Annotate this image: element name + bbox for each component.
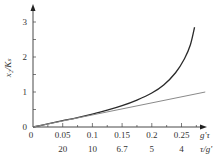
x-axis-arrow-icon — [200, 125, 207, 130]
y-tick-label: 3 — [23, 17, 28, 27]
x-axis: 00.05200.1100.156.70.250.254 — [29, 123, 207, 154]
y-axis: 0123 — [23, 4, 37, 132]
chart: 0123 00.05200.1100.156.70.250.254 x₂/Kₛ … — [0, 0, 215, 159]
x-tick-label: 0.25 — [174, 130, 190, 140]
x-secondary-tick-label: 4 — [179, 144, 184, 154]
y-axis-title: x₂/Kₛ — [3, 58, 13, 79]
x-secondary-tick-label: 5 — [150, 144, 155, 154]
x-axis-secondary-title: τ/g' — [200, 144, 213, 154]
series-curve — [33, 27, 195, 127]
x-secondary-tick-label: 6.7 — [116, 144, 128, 154]
y-tick-label: 1 — [23, 87, 28, 97]
x-tick-label: 0.1 — [87, 130, 98, 140]
y-tick-label: 0 — [23, 122, 28, 132]
x-secondary-tick-label: 20 — [58, 144, 68, 154]
y-tick-label: 2 — [23, 52, 28, 62]
x-tick-label: 0.15 — [114, 130, 130, 140]
series-line — [33, 92, 205, 127]
series-layer — [33, 27, 205, 127]
x-tick-label: 0.2 — [146, 130, 157, 140]
x-tick-label: 0.05 — [55, 130, 71, 140]
y-axis-arrow-icon — [31, 4, 36, 11]
x-tick-label: 0 — [29, 130, 34, 140]
x-axis-title: g'τ — [200, 130, 210, 140]
x-secondary-tick-label: 10 — [88, 144, 98, 154]
